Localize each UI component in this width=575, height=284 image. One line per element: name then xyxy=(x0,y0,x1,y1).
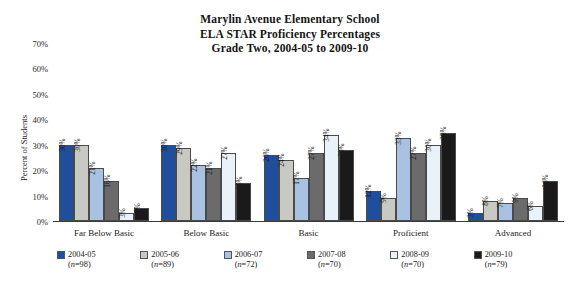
bar-value-label: 5% xyxy=(134,203,142,213)
bar-value-label: 3% xyxy=(467,209,475,219)
bar-slot: 34% xyxy=(324,44,339,221)
bar-group: 12%9%33%27%30%35% xyxy=(360,44,462,221)
bar[interactable]: 5% xyxy=(134,208,149,221)
legend-label: 2005-06 xyxy=(151,250,179,260)
bar[interactable]: 35% xyxy=(441,133,456,222)
bar[interactable]: 3% xyxy=(468,213,483,221)
bar[interactable]: 16% xyxy=(104,181,119,221)
bar-group: 26%24%17%27%34%28% xyxy=(257,44,359,221)
bar-value-label: 28% xyxy=(338,144,346,157)
x-axis-category-label: Below Basic xyxy=(155,228,257,238)
bar[interactable]: 7% xyxy=(498,203,513,221)
bar-slot: 21% xyxy=(206,44,221,221)
bar-value-label: 9% xyxy=(512,193,520,203)
bar-value-label: 12% xyxy=(365,184,373,197)
y-axis-title: Percent of Students xyxy=(19,83,29,213)
bar[interactable]: 27% xyxy=(411,153,426,221)
bar[interactable]: 16% xyxy=(543,181,558,221)
bar[interactable]: 30% xyxy=(74,145,89,221)
bar[interactable]: 17% xyxy=(294,178,309,221)
bar-slot: 3% xyxy=(119,44,134,221)
bar-slot: 6% xyxy=(528,44,543,221)
bar[interactable]: 15% xyxy=(236,183,251,221)
bar-value-label: 16% xyxy=(542,174,550,187)
bar-slot: 29% xyxy=(176,44,191,221)
y-axis-tick: 50% xyxy=(32,90,48,100)
y-axis-tick: 70% xyxy=(32,39,48,49)
bar-slot: 8% xyxy=(483,44,498,221)
bar-slot: 28% xyxy=(339,44,354,221)
bar-slot: 16% xyxy=(543,44,558,221)
bar[interactable]: 27% xyxy=(309,153,324,221)
bar-value-label: 16% xyxy=(104,174,112,187)
bar-slot: 16% xyxy=(104,44,119,221)
bar[interactable]: 21% xyxy=(89,168,104,221)
legend-item[interactable]: 2007-08(n=70) xyxy=(307,250,390,269)
bar-value-label: 7% xyxy=(497,198,505,208)
bar[interactable]: 30% xyxy=(426,145,441,221)
bar-slot: 27% xyxy=(221,44,236,221)
chart-title-line-2: ELA STAR Proficiency Percentages xyxy=(90,27,490,42)
y-axis-tick: 10% xyxy=(32,192,48,202)
bar-slot: 30% xyxy=(161,44,176,221)
legend-sample-size: (n=79) xyxy=(485,260,513,270)
bar-value-label: 35% xyxy=(440,126,448,139)
bar[interactable]: 30% xyxy=(161,145,176,221)
bar-value-label: 30% xyxy=(425,138,433,151)
bar-slot: 9% xyxy=(513,44,528,221)
bar-value-label: 22% xyxy=(191,159,199,172)
x-axis-category-label: Basic xyxy=(257,228,359,238)
bar[interactable]: 3% xyxy=(119,213,134,221)
plot-area: 0%10%20%30%40%50%60%70% 30%30%21%16%3%5%… xyxy=(53,44,564,222)
legend-color-swatch xyxy=(390,251,398,259)
x-axis-category-label: Proficient xyxy=(360,228,462,238)
bar[interactable]: 24% xyxy=(279,160,294,221)
bar-slot: 5% xyxy=(134,44,149,221)
bar-value-label: 34% xyxy=(323,128,331,141)
x-axis-category-label: Far Below Basic xyxy=(53,228,155,238)
chart-title-line-1: Marylin Avenue Elementary School xyxy=(90,12,490,27)
legend-sample-size: (n=98) xyxy=(68,260,96,270)
legend-color-swatch xyxy=(307,251,315,259)
chart-legend: 2004-05(n=98)2005-06(n=89)2006-07(n=72)2… xyxy=(57,250,557,269)
legend-sample-size: (n=89) xyxy=(151,260,179,270)
bar[interactable]: 9% xyxy=(381,198,396,221)
legend-label: 2008-09 xyxy=(401,250,429,260)
bar-value-label: 21% xyxy=(206,161,214,174)
legend-label: 2004-05 xyxy=(68,250,96,260)
bar-value-label: 30% xyxy=(74,138,82,151)
bar-value-label: 33% xyxy=(395,131,403,144)
y-axis-tick: 0% xyxy=(37,217,48,227)
legend-sample-size: (n=70) xyxy=(401,260,429,270)
legend-label: 2007-08 xyxy=(318,250,346,260)
legend-item[interactable]: 2004-05(n=98) xyxy=(57,250,140,269)
bar-value-label: 3% xyxy=(119,209,127,219)
legend-label: 2009-10 xyxy=(485,250,513,260)
y-axis-tick: 30% xyxy=(32,141,48,151)
chart-container: Marylin Avenue Elementary School ELA STA… xyxy=(0,0,575,284)
bar-slot: 27% xyxy=(411,44,426,221)
legend-color-swatch xyxy=(57,251,65,259)
bar-value-label: 30% xyxy=(161,138,169,151)
legend-item[interactable]: 2008-09(n=70) xyxy=(390,250,473,269)
bar-group: 30%29%22%21%27%15% xyxy=(155,44,257,221)
legend-sample-size: (n=72) xyxy=(235,260,263,270)
legend-color-swatch xyxy=(140,251,148,259)
bar-slot: 24% xyxy=(279,44,294,221)
bar[interactable]: 30% xyxy=(59,145,74,221)
legend-item[interactable]: 2006-07(n=72) xyxy=(224,250,307,269)
bar-slot: 30% xyxy=(74,44,89,221)
bar[interactable]: 28% xyxy=(339,150,354,221)
legend-item[interactable]: 2005-06(n=89) xyxy=(140,250,223,269)
bar-value-label: 27% xyxy=(221,146,229,159)
bar-group: 30%30%21%16%3%5% xyxy=(53,44,155,221)
bar-value-label: 9% xyxy=(380,193,388,203)
bar-value-label: 21% xyxy=(89,161,97,174)
y-axis-tick: 60% xyxy=(32,64,48,74)
bar-value-label: 27% xyxy=(410,146,418,159)
bar-group: 3%8%7%9%6%16% xyxy=(462,44,564,221)
bar[interactable]: 21% xyxy=(206,168,221,221)
bar[interactable]: 6% xyxy=(528,206,543,221)
bar-slot: 26% xyxy=(264,44,279,221)
legend-item[interactable]: 2009-10(n=79) xyxy=(474,250,557,269)
